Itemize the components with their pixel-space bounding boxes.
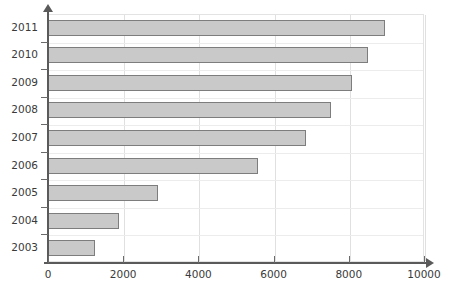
- x-tick: [349, 256, 350, 263]
- y-tick-label-2004: 2004: [0, 214, 38, 226]
- y-axis-line: [47, 10, 49, 264]
- y-tick: [41, 234, 48, 235]
- y-tick: [41, 97, 48, 98]
- y-tick-label-2010: 2010: [0, 48, 38, 60]
- y-tick-label-2006: 2006: [0, 159, 38, 171]
- x-tick: [274, 256, 275, 263]
- x-tick: [48, 256, 49, 263]
- x-tick-label-2000: 2000: [110, 268, 137, 280]
- y-tick: [41, 124, 48, 125]
- y-tick: [41, 42, 48, 43]
- bar-2007: [48, 130, 306, 146]
- y-tick: [41, 69, 48, 70]
- x-tick: [123, 256, 124, 263]
- y-tick-label-2007: 2007: [0, 131, 38, 143]
- bar-chart: 2011201020092008200720062005200420030200…: [0, 0, 451, 296]
- x-tick: [424, 256, 425, 263]
- bar-2011: [48, 20, 385, 36]
- y-tick: [41, 152, 48, 153]
- bar-2008: [48, 102, 331, 118]
- bar-2003: [48, 240, 95, 256]
- y-tick: [41, 179, 48, 180]
- y-tick: [41, 207, 48, 208]
- y-tick-label-2008: 2008: [0, 103, 38, 115]
- y-tick-label-2003: 2003: [0, 241, 38, 253]
- x-tick-label-0: 0: [45, 268, 52, 280]
- bar-2010: [48, 47, 368, 63]
- x-tick-label-6000: 6000: [260, 268, 287, 280]
- bar-2004: [48, 213, 119, 229]
- y-tick-label-2011: 2011: [0, 21, 38, 33]
- x-axis-arrow-icon: [426, 258, 434, 268]
- x-tick: [198, 256, 199, 263]
- x-tick-label-10000: 10000: [407, 268, 440, 280]
- x-tick-label-4000: 4000: [185, 268, 212, 280]
- y-axis-arrow-icon: [43, 4, 53, 12]
- y-tick-label-2009: 2009: [0, 76, 38, 88]
- bar-2006: [48, 158, 258, 174]
- bar-2005: [48, 185, 158, 201]
- bar-2009: [48, 75, 352, 91]
- x-tick-label-8000: 8000: [335, 268, 362, 280]
- gridline-vertical: [425, 15, 426, 261]
- y-tick-label-2005: 2005: [0, 186, 38, 198]
- x-axis-line: [44, 262, 428, 264]
- bars-layer: [48, 14, 424, 262]
